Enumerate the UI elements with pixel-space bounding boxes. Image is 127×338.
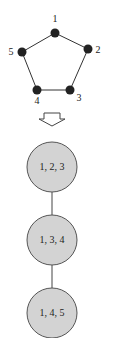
- graph-node-4: [33, 86, 42, 95]
- down-arrow-icon: [39, 113, 65, 126]
- edge-2-3: [70, 49, 88, 90]
- tree-decomposition: 1, 2, 3 1, 3, 4 1, 4, 5: [27, 142, 77, 338]
- diagram: 1 2 3 4 5 1, 2, 3 1, 3, 4 1, 4, 5: [0, 0, 127, 338]
- graph-node-label: 4: [35, 95, 40, 106]
- graph-node-label: 5: [9, 46, 14, 57]
- graph-node-label: 1: [53, 13, 58, 24]
- edge-5-1: [22, 33, 55, 52]
- edge-1-2: [55, 33, 88, 49]
- bag-label: 1, 4, 5: [40, 307, 65, 318]
- graph-node-label: 2: [96, 44, 101, 55]
- bag-label: 1, 2, 3: [40, 161, 65, 172]
- pentagon-graph: 1 2 3 4 5: [9, 13, 101, 106]
- edge-4-5: [22, 52, 37, 90]
- bag-label: 1, 3, 4: [40, 234, 65, 245]
- graph-node-label: 3: [77, 92, 82, 103]
- graph-node-5: [18, 48, 27, 57]
- graph-node-3: [66, 86, 75, 95]
- graph-node-2: [84, 45, 93, 54]
- graph-node-1: [51, 29, 60, 38]
